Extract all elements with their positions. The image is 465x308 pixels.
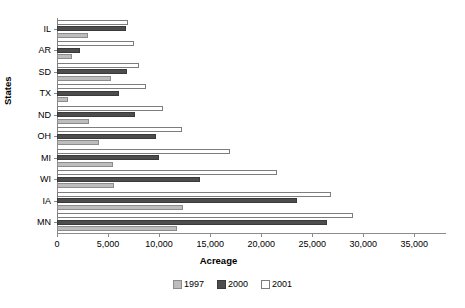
x-axis-title-text: Acreage xyxy=(200,255,238,266)
bar-1997 xyxy=(57,97,68,102)
bar-2000 xyxy=(57,134,156,139)
bar-group: ND xyxy=(57,104,445,126)
bar-group: IA xyxy=(57,190,445,212)
chart-legend: 199720002001 xyxy=(0,279,465,289)
legend-swatch-2001 xyxy=(261,280,270,289)
bar-group: WI xyxy=(57,169,445,191)
y-axis-tick-label: OH xyxy=(38,132,52,141)
bar-chart: States ILARSDTXNDOHMIWIIAMN 05,00010,000… xyxy=(0,0,465,308)
legend-label: 2000 xyxy=(228,279,248,289)
bar-2001 xyxy=(57,192,331,197)
bar-group: TX xyxy=(57,83,445,105)
y-axis-tick-label: IL xyxy=(43,24,51,33)
bar-2001 xyxy=(57,20,128,25)
bar-group: SD xyxy=(57,61,445,83)
x-axis-tick-label: 20,000 xyxy=(247,240,275,249)
y-axis-tick-label: TX xyxy=(39,89,51,98)
y-axis-tick-label: IA xyxy=(42,196,51,205)
bar-1997 xyxy=(57,205,183,210)
bar-1997 xyxy=(57,76,111,81)
bar-group: OH xyxy=(57,126,445,148)
x-axis-tick xyxy=(159,233,160,237)
bar-group: MI xyxy=(57,147,445,169)
bar-2001 xyxy=(57,213,353,218)
bar-2001 xyxy=(57,84,146,89)
legend-label: 2001 xyxy=(272,279,292,289)
x-axis-tick-label: 30,000 xyxy=(350,240,378,249)
legend-swatch-1997 xyxy=(173,280,182,289)
x-axis-tick-label: 15,000 xyxy=(196,240,224,249)
y-axis-tick-label: AR xyxy=(38,46,51,55)
bar-2001 xyxy=(57,106,163,111)
legend-item-2001: 2001 xyxy=(261,279,292,289)
bar-group: AR xyxy=(57,40,445,62)
x-axis-tick-label: 0 xyxy=(54,240,59,249)
x-axis-tick xyxy=(261,233,262,237)
bar-group: MN xyxy=(57,212,445,234)
bar-group: IL xyxy=(57,18,445,40)
bar-2000 xyxy=(57,198,297,203)
x-axis-line xyxy=(57,233,446,234)
bar-2001 xyxy=(57,149,230,154)
bar-2000 xyxy=(57,155,159,160)
x-axis-title: Acreage xyxy=(0,255,465,266)
x-axis-tick-label: 35,000 xyxy=(401,240,429,249)
bar-2000 xyxy=(57,112,135,117)
x-axis-tick-label: 25,000 xyxy=(298,240,326,249)
x-axis-tick xyxy=(210,233,211,237)
x-axis-tick xyxy=(414,233,415,237)
bar-2000 xyxy=(57,69,127,74)
plot-area: ILARSDTXNDOHMIWIIAMN xyxy=(57,18,445,233)
x-axis-tick-label: 5,000 xyxy=(97,240,120,249)
x-axis-tick xyxy=(108,233,109,237)
x-axis-tick xyxy=(363,233,364,237)
bar-2001 xyxy=(57,170,277,175)
bar-2000 xyxy=(57,26,126,31)
y-axis-tick-label: ND xyxy=(38,110,51,119)
bar-1997 xyxy=(57,140,99,145)
bar-1997 xyxy=(57,162,113,167)
legend-label: 1997 xyxy=(184,279,204,289)
bar-2000 xyxy=(57,48,80,53)
bar-2001 xyxy=(57,63,139,68)
bar-2000 xyxy=(57,220,327,225)
bar-1997 xyxy=(57,119,89,124)
y-axis-tick-label: SD xyxy=(38,67,51,76)
y-axis-tick-label: MI xyxy=(41,153,51,162)
bar-1997 xyxy=(57,183,114,188)
y-axis-title: States xyxy=(2,76,13,105)
bar-1997 xyxy=(57,54,72,59)
legend-item-2000: 2000 xyxy=(217,279,248,289)
bar-2001 xyxy=(57,127,182,132)
x-axis-tick xyxy=(312,233,313,237)
legend-item-1997: 1997 xyxy=(173,279,204,289)
x-axis-tick xyxy=(57,233,58,237)
bar-2001 xyxy=(57,41,134,46)
y-axis-tick-label: WI xyxy=(40,175,51,184)
bar-1997 xyxy=(57,226,177,231)
x-axis-tick-label: 10,000 xyxy=(145,240,173,249)
bar-1997 xyxy=(57,33,88,38)
y-axis-tick-label: MN xyxy=(37,218,51,227)
bar-2000 xyxy=(57,177,200,182)
legend-swatch-2000 xyxy=(217,280,226,289)
bar-2000 xyxy=(57,91,119,96)
